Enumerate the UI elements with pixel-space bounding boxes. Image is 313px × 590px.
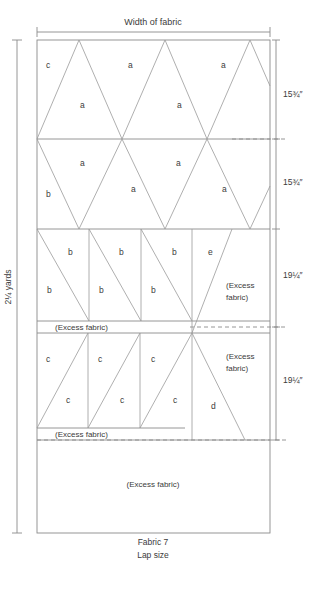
row1-measure-label: 15¾″ xyxy=(283,89,303,99)
excess-fabric-right-lower-line1: (Excess xyxy=(226,352,254,361)
piece-r4-c3: c xyxy=(98,354,103,364)
row4-cut-lines xyxy=(37,333,245,440)
height-label: 2¼ yards xyxy=(3,270,13,305)
row3-measure-label: 19¼″ xyxy=(283,270,303,280)
piece-r1-a4: a xyxy=(221,60,226,70)
piece-r3-e: e xyxy=(208,247,213,257)
fabric-cutting-diagram: Width of fabric 2¼ yards xyxy=(0,0,313,590)
piece-r3-b4: b xyxy=(99,285,104,295)
piece-r4-c5: c xyxy=(151,354,156,364)
piece-r2-a2: a xyxy=(131,184,136,194)
piece-r1-c: c xyxy=(46,60,51,70)
height-dimension xyxy=(12,40,22,533)
row2-cut-lines xyxy=(37,139,270,229)
piece-r4-c6: c xyxy=(173,395,178,405)
excess-fabric-right-upper-line1: (Excess xyxy=(226,281,254,290)
excess-fabric-mid-strip: (Excess fabric) xyxy=(55,323,108,332)
row2-measure-label: 15¾″ xyxy=(283,177,303,187)
excess-fabric-lower-strip: (Excess fabric) xyxy=(55,430,108,439)
piece-r3-b2: b xyxy=(47,285,52,295)
piece-r3-b1: b xyxy=(68,247,73,257)
caption-fabric-number: Fabric 7 xyxy=(138,537,169,547)
fabric-layout-svg: Width of fabric 2¼ yards xyxy=(0,0,313,590)
piece-r4-c2: c xyxy=(66,395,71,405)
caption-size: Lap size xyxy=(137,550,169,560)
piece-r4-c4: c xyxy=(120,395,125,405)
piece-r3-b5: b xyxy=(172,247,177,257)
width-dimension xyxy=(37,27,270,37)
piece-r2-a4: a xyxy=(222,184,227,194)
row-measure-ticks xyxy=(272,40,280,440)
excess-fabric-bottom-block: (Excess fabric) xyxy=(127,480,180,489)
piece-r3-b6: b xyxy=(151,285,156,295)
piece-r2-a1: a xyxy=(80,158,85,168)
row4-measure-label: 19¼″ xyxy=(283,375,303,385)
piece-r2-a3: a xyxy=(176,158,181,168)
piece-r4-c1: c xyxy=(46,354,51,364)
piece-r1-a1: a xyxy=(80,100,85,110)
row3-cut-lines xyxy=(37,229,232,333)
excess-fabric-right-upper-line2: fabric) xyxy=(226,293,249,302)
width-of-fabric-label: Width of fabric xyxy=(124,17,182,27)
piece-r3-b3: b xyxy=(119,247,124,257)
piece-r1-a3: a xyxy=(177,100,182,110)
row1-cut-lines xyxy=(37,40,270,139)
piece-r4-d: d xyxy=(211,401,216,411)
excess-fabric-right-lower-line2: fabric) xyxy=(226,364,249,373)
piece-r2-b: b xyxy=(46,189,51,199)
piece-r1-a2: a xyxy=(128,60,133,70)
